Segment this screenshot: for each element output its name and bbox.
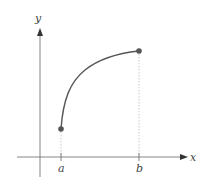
x-axis-arrow-icon [180,154,188,160]
point-a [58,126,64,132]
x-axis-label: x [190,151,197,164]
tick-label-b: b [136,162,143,175]
tick-label-a: a [58,162,65,175]
graph: x y a b [0,0,205,188]
y-axis-label: y [34,12,42,25]
y-axis-arrow-icon [37,28,43,36]
point-b [136,48,142,54]
curve [61,51,139,129]
